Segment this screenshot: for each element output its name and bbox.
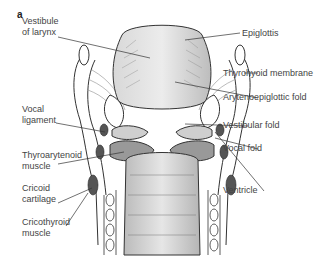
label-vestibule-of-larynx: Vestibule of larynx <box>22 16 59 38</box>
label-vestibular-fold: Vestibular fold <box>223 120 280 131</box>
label-cricoid-cartilage: Cricoid cartilage <box>22 183 56 205</box>
label-thyroarytenoid-muscle: Thyroarytenoid muscle <box>22 150 82 172</box>
label-epiglottis: Epiglottis <box>242 28 279 39</box>
trachea <box>124 153 200 256</box>
cricoid-left <box>88 175 98 195</box>
label-vocal-ligament: Vocal ligament <box>22 104 56 126</box>
label-arytenoepiglottic-fold: Arytenoepiglottic fold <box>223 92 307 103</box>
vestibular-fold-left <box>112 126 148 140</box>
superior-horn-right <box>235 45 245 65</box>
label-ventricle: Ventricle <box>223 185 258 196</box>
epiglottis <box>113 25 211 109</box>
label-thyrohyoid-membrane: Thyrohyoid membrane <box>223 68 313 79</box>
vestibular-fold-right <box>176 126 212 140</box>
superior-horn-left <box>79 45 89 65</box>
label-cricothyroid-muscle: Cricothyroid muscle <box>22 217 70 239</box>
label-vocal-fold: Vocal fold <box>223 143 262 154</box>
